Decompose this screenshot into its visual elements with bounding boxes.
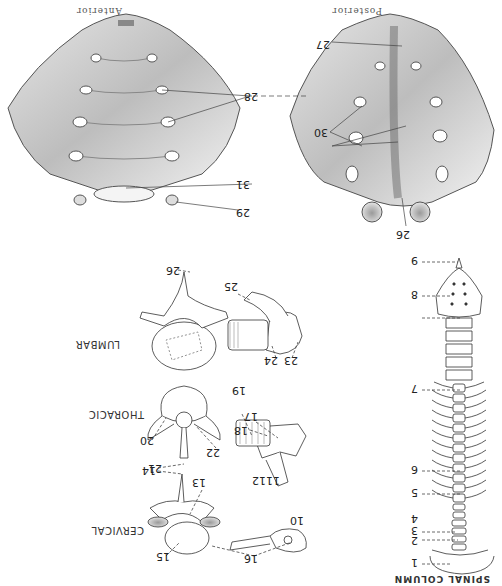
sacrum-anterior-drawing (8, 14, 306, 210)
label-22: 22 (206, 447, 220, 458)
thoracic-drawings (148, 386, 306, 486)
section-thoracic: THORACIC (88, 409, 144, 420)
label-3: 3 (411, 525, 418, 536)
label-4: 4 (411, 513, 418, 524)
label-10: 10 (290, 515, 304, 526)
caption-anterior: Anterior (76, 6, 122, 16)
label-13: 13 (192, 477, 206, 488)
anatomy-plate: SPINAL COLUMN Posterior Anterior CERVICA… (0, 0, 502, 586)
label-6: 6 (411, 464, 418, 475)
label-31: 31 (236, 179, 250, 190)
label-24: 24 (264, 355, 278, 366)
label-5: 5 (411, 487, 418, 498)
label-7: 7 (411, 383, 418, 394)
caption-posterior: Posterior (331, 6, 382, 16)
spinal-column-drawing (422, 258, 494, 574)
label-29: 29 (236, 207, 250, 218)
label-17: 17 (244, 411, 258, 422)
label-28: 28 (244, 91, 258, 102)
section-lumbar: LUMBAR (75, 339, 120, 350)
figure-title: SPINAL COLUMN (394, 574, 490, 584)
label-11: 11 (266, 475, 280, 486)
label-19: 19 (232, 385, 246, 396)
label-21: 21 (148, 463, 162, 474)
label-16: 16 (244, 553, 258, 564)
section-cervical: CERVICAL (91, 525, 144, 536)
label-15: 15 (156, 551, 170, 562)
label-26-sacrum: 26 (396, 229, 410, 240)
label-1: 1 (411, 557, 418, 568)
label-26-lumbar: 26 (166, 265, 180, 276)
label-9: 9 (411, 255, 418, 266)
label-18: 18 (234, 425, 248, 436)
label-20: 20 (140, 435, 154, 446)
label-12: 12 (252, 475, 266, 486)
label-25: 25 (224, 281, 238, 292)
plate-drawings (0, 0, 502, 586)
label-8: 8 (411, 289, 418, 300)
label-27: 27 (316, 39, 330, 50)
label-30: 30 (314, 127, 328, 138)
label-23: 23 (284, 355, 298, 366)
